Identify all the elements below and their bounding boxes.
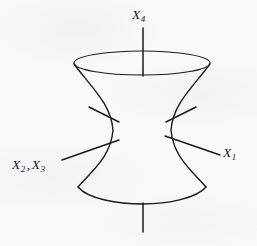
axis-line-x1 — [165, 136, 220, 155]
left-profile-curve — [74, 64, 113, 187]
label-x4: X4 — [132, 8, 145, 22]
label-x1: X1 — [223, 146, 236, 160]
right-profile-curve — [171, 64, 210, 187]
axis-line-x2-x3 — [62, 140, 119, 160]
label-x2-base: X — [12, 157, 20, 172]
label-x1-subscript: 1 — [232, 152, 237, 162]
label-x1-base: X — [223, 145, 231, 160]
label-separator: , — [25, 157, 32, 172]
bottom-rim-arc — [78, 187, 206, 204]
hyperboloid-diagram — [0, 0, 257, 246]
label-x4-base: X — [132, 7, 140, 22]
label-x3-base: X — [32, 157, 40, 172]
label-x2-subscript: 2 — [21, 164, 26, 174]
figure-container: X4 X1 X2,X3 — [0, 0, 257, 246]
label-x3-subscript: 3 — [41, 164, 46, 174]
label-x2-x3: X2,X3 — [12, 158, 45, 172]
top-rim-ellipse — [74, 51, 210, 75]
ruling-line-right-upper — [166, 107, 196, 122]
ruling-line-left-upper — [89, 107, 119, 122]
label-x4-subscript: 4 — [141, 14, 146, 24]
